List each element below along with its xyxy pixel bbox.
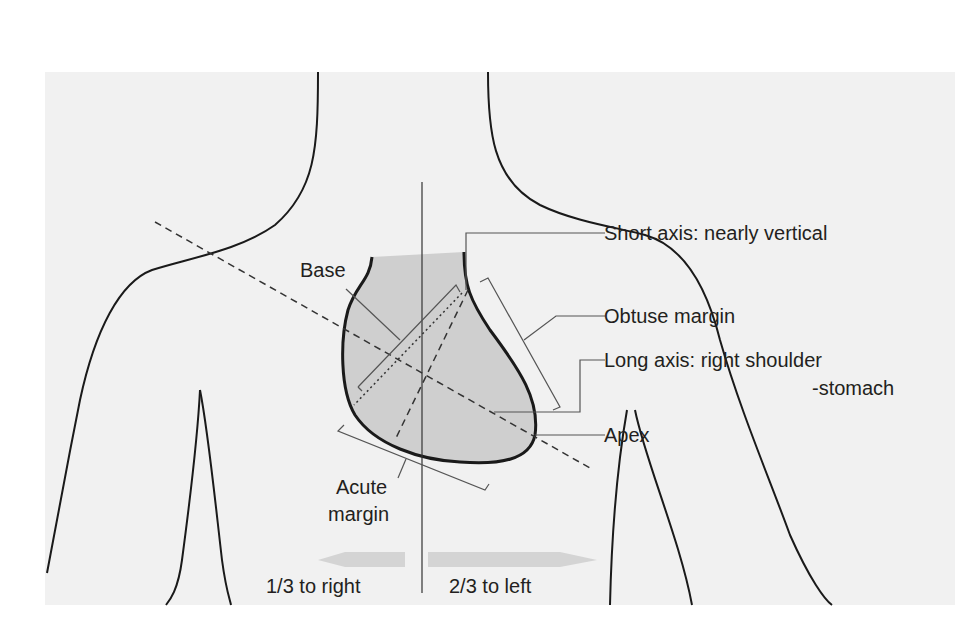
heart-position-diagram	[0, 0, 978, 633]
label-apex: Apex	[604, 424, 650, 446]
label-right-fraction: 1/3 to right	[266, 575, 361, 597]
short-axis-leader	[466, 233, 605, 290]
torso-outline	[47, 72, 318, 573]
left-arm-inner	[166, 390, 200, 605]
label-base: Base	[300, 259, 346, 281]
acute-margin-leader	[398, 459, 406, 478]
label-left-fraction: 2/3 to left	[449, 575, 531, 597]
label-short-axis: Short axis: nearly vertical	[604, 222, 827, 244]
obtuse-margin-leader	[524, 316, 605, 340]
arrow-left-side	[428, 552, 597, 567]
arrow-right-side	[318, 552, 405, 567]
torso-outline-right	[488, 72, 832, 605]
label-long-axis-line1: Long axis: right shoulder	[604, 349, 822, 371]
left-torso-side	[200, 390, 231, 605]
label-long-axis-line2: -stomach	[812, 377, 894, 399]
label-acute-margin-line1: Acute	[336, 476, 387, 498]
label-acute-margin-line2: margin	[328, 503, 389, 525]
label-obtuse-margin: Obtuse margin	[604, 305, 735, 327]
